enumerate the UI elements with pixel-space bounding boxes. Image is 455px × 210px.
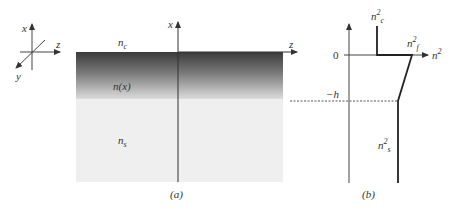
figure: x z y x z nc n(x) ns (a) n2 0 −h n2c n2f… — [0, 0, 455, 210]
cover-n2-label: n2c — [371, 8, 385, 25]
film-index-label: n(x) — [113, 80, 131, 93]
panel-a-z-label: z — [288, 38, 294, 50]
substrate-n2-label: n2s — [378, 137, 391, 154]
triad-z-label: z — [55, 38, 61, 50]
tick-zero: 0 — [333, 49, 339, 61]
index-profile-curve — [377, 26, 412, 183]
coordinate-triad: x z y — [15, 22, 61, 82]
triad-x-label: x — [21, 22, 27, 34]
panel-b-n2-label: n2 — [432, 47, 442, 61]
film-n2-label: n2f — [407, 35, 421, 52]
triad-y-label: y — [15, 70, 21, 82]
panel-b: n2 0 −h n2c n2f n2s (b) — [290, 8, 442, 201]
tick-minus-h: −h — [326, 88, 339, 100]
film-region — [76, 52, 283, 99]
triad-y-axis — [16, 40, 45, 68]
panel-b-caption: (b) — [362, 188, 375, 201]
cover-index-label: nc — [118, 36, 128, 51]
panel-a: x z nc n(x) ns (a) — [76, 18, 297, 201]
panel-a-x-label: x — [167, 18, 173, 30]
substrate-region — [76, 99, 283, 182]
panel-a-caption: (a) — [170, 188, 183, 201]
